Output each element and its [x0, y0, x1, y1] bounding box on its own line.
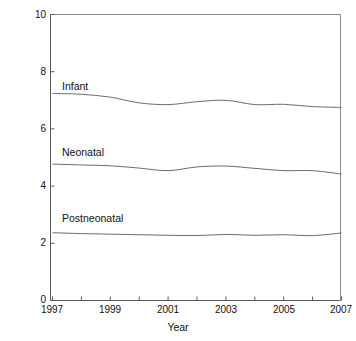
x-axis-ticks: [53, 297, 342, 301]
y-axis-ticks: [51, 15, 55, 301]
plot-area: [0, 0, 356, 341]
data-series-group: [53, 93, 342, 235]
infant-mortality-line-chart: Deaths per 1000 live births 10 8 6 4 2 0…: [0, 0, 356, 341]
axis-frame: [51, 15, 341, 301]
series-line-infant: [53, 93, 342, 107]
series-line-neonatal: [53, 164, 342, 174]
series-line-postneonatal: [53, 233, 342, 236]
